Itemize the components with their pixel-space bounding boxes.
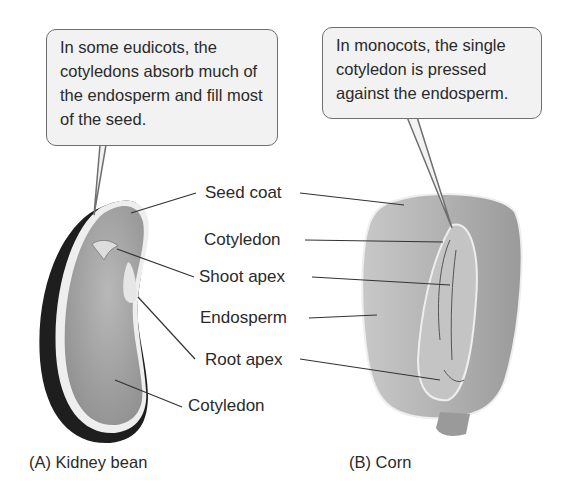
label-cotyledon-corn: Cotyledon — [204, 230, 281, 250]
caption-kidney-bean: (A) Kidney bean — [29, 452, 147, 472]
eudicot-callout: In some eudicots, the cotyledons absorb … — [46, 29, 278, 146]
caption-corn: (B) Corn — [349, 452, 411, 472]
label-endosperm: Endosperm — [200, 308, 287, 328]
corn-illustration — [362, 194, 521, 436]
label-root-apex: Root apex — [205, 350, 283, 370]
eudicot-callout-text: In some eudicots, the cotyledons absorb … — [60, 38, 263, 128]
label-cotyledon-bean: Cotyledon — [188, 396, 265, 416]
kidney-bean-illustration — [39, 200, 148, 443]
monocot-callout-text: In monocots, the single cotyledon is pre… — [336, 36, 508, 102]
monocot-callout: In monocots, the single cotyledon is pre… — [322, 27, 542, 119]
label-seed-coat: Seed coat — [205, 183, 282, 203]
label-shoot-apex: Shoot apex — [199, 267, 285, 287]
